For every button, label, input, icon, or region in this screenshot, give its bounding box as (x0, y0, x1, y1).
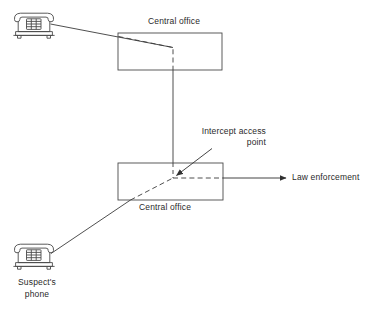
central-office-top-box (118, 33, 222, 70)
suspects-phone-line2: phone (25, 289, 49, 299)
intercept-access-point-line2: point (247, 137, 266, 147)
desk-telephone-icon-suspect (13, 244, 54, 269)
suspects-phone-line1: Suspect's (18, 277, 56, 287)
label-central-office-top: Central office (148, 16, 200, 27)
diagram-canvas (0, 0, 380, 314)
label-intercept-access-point: Intercept accesspoint (190, 126, 266, 148)
label-central-office-bottom: Central office (139, 202, 191, 213)
intercept-access-point-pointer (177, 149, 213, 176)
intercept-access-point-line1: Intercept access (202, 126, 266, 136)
suspects-phone-to-central-office-line (51, 200, 131, 254)
desk-telephone-icon-top (13, 13, 54, 38)
network-intercept-diagram: Central office Central office Intercept … (0, 0, 380, 314)
tapped-path-inside-top-office (119, 37, 174, 71)
label-suspects-phone: Suspect'sphone (12, 276, 62, 300)
label-law-enforcement: Law enforcement (292, 172, 359, 183)
tapped-path-inside-bottom-office (131, 178, 174, 200)
central-office-bottom-box (118, 163, 223, 200)
